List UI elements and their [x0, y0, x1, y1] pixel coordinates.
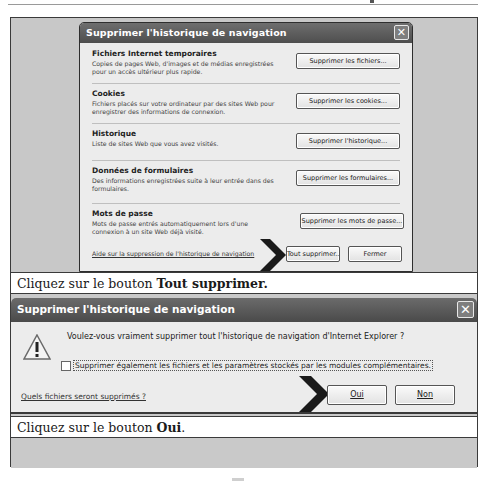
section-passwords: Mots de passe Mots de passe entrés autom…: [92, 209, 404, 236]
section-description: Des informations enregistrées suite à le…: [92, 177, 278, 193]
delete-forms-button[interactable]: Supprimer les formulaires...: [296, 170, 400, 186]
no-button[interactable]: Non: [395, 385, 455, 405]
dialog-title-bar: Supprimer l'historique de navigation ✕: [11, 298, 477, 322]
caption-suffix: .: [181, 420, 185, 435]
delete-history-dialog: Supprimer l'historique de navigation ✕ F…: [79, 22, 413, 272]
addons-checkbox-row[interactable]: Supprimer également les fichiers et les …: [61, 360, 433, 371]
delete-history-button[interactable]: Supprimer l'historique...: [296, 133, 400, 149]
delete-files-button[interactable]: Supprimer les fichiers...: [296, 53, 400, 69]
caption-text: Cliquez sur le bouton: [17, 276, 157, 291]
close-icon[interactable]: ✕: [457, 301, 474, 318]
pointer-arrow-icon: [299, 376, 329, 412]
dialog-title-bar: Supprimer l'historique de navigation ✕: [80, 23, 412, 43]
tutorial-frame: Supprimer l'historique de navigation ✕ F…: [10, 17, 478, 467]
section-history: Historique Liste de sites Web que vous a…: [92, 129, 404, 148]
confirm-question: Voulez-vous vraiment supprimer tout l'hi…: [67, 332, 404, 341]
addons-checkbox[interactable]: [61, 361, 71, 371]
step2-caption: Cliquez sur le bouton Oui.: [11, 416, 477, 438]
divider: [92, 123, 400, 124]
page-footer-mark: [232, 478, 244, 481]
page-top-mark: [370, 0, 374, 3]
bottom-band: [11, 442, 477, 468]
confirm-delete-dialog: Supprimer l'historique de navigation ✕ V…: [11, 298, 477, 414]
caption-text: Cliquez sur le bouton: [17, 420, 157, 435]
step1-caption: Cliquez sur le bouton Tout supprimer.: [11, 272, 477, 294]
divider: [92, 160, 400, 161]
close-icon[interactable]: ✕: [394, 25, 409, 40]
page-top-rule: [8, 4, 478, 5]
section-description: Mots de passe entrés automatiquement lor…: [92, 220, 278, 236]
which-files-link[interactable]: Quels fichiers seront supprimés ?: [21, 392, 146, 401]
section-cookies: Cookies Fichiers placés sur votre ordina…: [92, 89, 404, 116]
section-description: Copies de pages Web, d'images et de médi…: [92, 60, 278, 76]
delete-cookies-button[interactable]: Supprimer les cookies...: [296, 93, 400, 109]
delete-passwords-button[interactable]: Supprimer les mots de passe...: [300, 213, 404, 229]
section-temp-files: Fichiers Internet temporaires Copies de …: [92, 49, 404, 76]
step1-panel: Supprimer l'historique de navigation ✕ F…: [11, 18, 477, 274]
checkbox-label[interactable]: Supprimer également les fichiers et les …: [73, 360, 433, 371]
help-link[interactable]: Aide sur la suppression de l'historique …: [92, 250, 254, 257]
caption-bold-text: Tout supprimer.: [157, 276, 268, 291]
pointer-arrow-icon: [260, 239, 286, 271]
yes-button[interactable]: Oui: [327, 385, 387, 405]
close-button[interactable]: Fermer: [348, 246, 402, 262]
delete-all-button[interactable]: Tout supprimer...: [286, 246, 340, 262]
section-form-data: Données de formulaires Des informations …: [92, 166, 404, 193]
divider: [92, 83, 400, 84]
divider: [92, 203, 400, 204]
caption-bold-text: Oui: [157, 420, 182, 435]
section-description: Fichiers placés sur votre ordinateur par…: [92, 100, 278, 116]
dialog-title: Supprimer l'historique de navigation: [86, 27, 287, 38]
dialog-title: Supprimer l'historique de navigation: [17, 303, 235, 315]
warning-triangle-icon: [23, 334, 51, 360]
section-description: Liste de sites Web que vous avez visités…: [92, 140, 278, 148]
